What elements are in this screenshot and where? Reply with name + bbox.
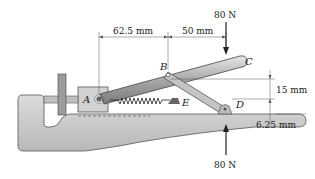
- point-c-label: C: [245, 56, 253, 67]
- dim-6-25: 6.25 mm: [256, 120, 296, 130]
- dimension-lines: [99, 32, 306, 125]
- spring-anchor-e: [168, 98, 180, 104]
- dim-50: 50 mm: [182, 26, 214, 36]
- force-label-bottom: 80 N: [214, 160, 236, 170]
- dim-62-5: 62.5 mm: [113, 26, 153, 36]
- point-e-label: E: [181, 97, 190, 108]
- pivot-b: [166, 73, 170, 77]
- adjust-knob: [58, 74, 66, 115]
- point-b-label: B: [159, 61, 167, 72]
- force-label-top: 80 N: [214, 10, 236, 20]
- force-arrow-top: [223, 22, 229, 55]
- toggle-clamp-diagram: 62.5 mm 50 mm 15 mm 6.25 mm 80 N 80 N A …: [0, 0, 315, 179]
- point-a-label: A: [82, 94, 90, 105]
- dim-15: 15 mm: [276, 85, 308, 95]
- point-d-label: D: [235, 99, 244, 110]
